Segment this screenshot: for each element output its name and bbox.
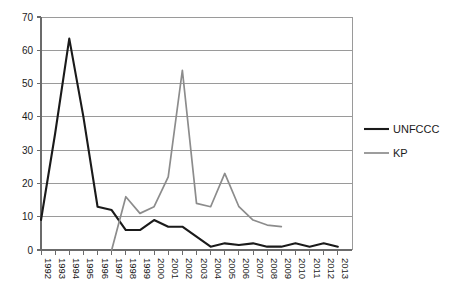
x-axis xyxy=(41,250,352,255)
y-tick-label: 20 xyxy=(22,178,34,189)
x-tick-label: 2011 xyxy=(312,258,323,278)
x-tick-label: 2000 xyxy=(156,258,167,279)
x-tick-label: 2008 xyxy=(269,258,280,279)
x-tick-label: 2013 xyxy=(340,258,351,279)
x-tick-label: 2002 xyxy=(184,258,195,279)
y-tick-label: 0 xyxy=(27,245,33,256)
x-tick-label: 1992 xyxy=(43,258,54,279)
x-tick-label: 2001 xyxy=(170,258,181,279)
x-tick-label: 2012 xyxy=(326,258,337,279)
x-tick-label: 2009 xyxy=(283,258,294,279)
x-tick-label: 2007 xyxy=(255,258,266,279)
y-axis-tick-labels: 010203040506070 xyxy=(22,12,34,256)
y-tick-label: 50 xyxy=(22,78,34,89)
x-tick-label: 1998 xyxy=(128,258,139,279)
chart-container: 010203040506070 199219931994199519961997… xyxy=(0,0,453,287)
x-tick-label: 1993 xyxy=(57,258,68,279)
series-line-kp xyxy=(112,70,282,250)
series-lines xyxy=(41,39,338,250)
y-tick-label: 60 xyxy=(22,45,34,56)
x-tick-label: 2003 xyxy=(199,258,210,279)
y-tick-label: 30 xyxy=(22,145,34,156)
x-tick-label: 1999 xyxy=(142,258,153,279)
chart-legend: UNFCCCKP xyxy=(364,123,439,159)
x-tick-label: 1995 xyxy=(85,258,96,279)
x-tick-label: 2004 xyxy=(213,258,224,279)
y-tick-label: 10 xyxy=(22,211,34,222)
y-axis xyxy=(37,17,41,250)
legend-label-unfccc: UNFCCC xyxy=(393,123,439,135)
x-tick-label: 2010 xyxy=(297,258,308,279)
x-tick-label: 1997 xyxy=(114,258,125,279)
x-tick-label: 1994 xyxy=(71,258,82,279)
x-tick-label: 2005 xyxy=(227,258,238,279)
line-chart: 010203040506070 199219931994199519961997… xyxy=(0,0,453,287)
y-tick-label: 40 xyxy=(22,111,34,122)
y-tick-label: 70 xyxy=(22,12,34,23)
plot-gridlines xyxy=(41,17,352,250)
legend-label-kp: KP xyxy=(393,147,408,159)
x-tick-label: 1996 xyxy=(100,258,111,279)
x-tick-label: 2006 xyxy=(241,258,252,279)
x-axis-tick-labels: 1992199319941995199619971998199920002001… xyxy=(43,258,351,279)
